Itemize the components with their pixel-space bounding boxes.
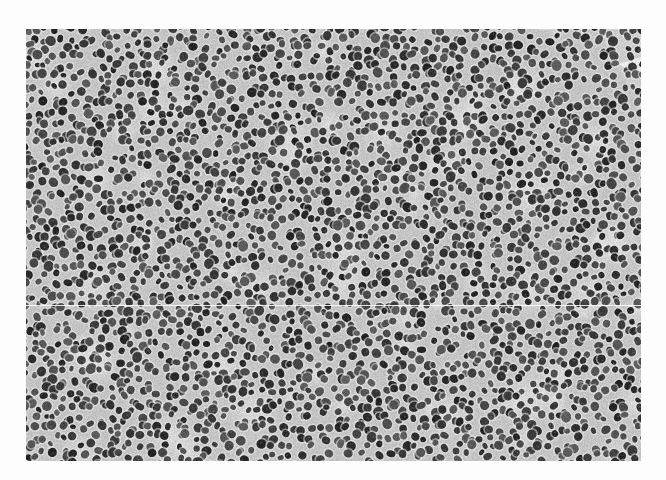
caption <box>26 464 641 476</box>
micrograph-image <box>26 29 641 461</box>
page <box>0 0 666 480</box>
micrograph-canvas <box>26 29 641 461</box>
scan-line-artifact <box>26 305 641 306</box>
